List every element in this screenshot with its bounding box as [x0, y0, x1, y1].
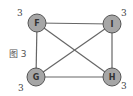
node-label: H — [109, 73, 116, 82]
node-degree-label: 3 — [121, 8, 127, 18]
node-G: G3 — [18, 68, 45, 93]
node-degree-label: 3 — [121, 81, 127, 91]
edge-F-I — [37, 23, 112, 24]
node-label: G — [33, 73, 40, 82]
edges — [36, 23, 112, 77]
node-H: H3 — [103, 68, 127, 91]
node-degree-label: 3 — [18, 83, 24, 93]
figure-caption: 图 3 — [9, 47, 27, 60]
node-F: F3 — [17, 8, 46, 32]
node-label: I — [111, 20, 114, 29]
node-I: I3 — [103, 8, 127, 33]
node-label: F — [34, 19, 39, 28]
nodes: F3I3G3H3 — [17, 8, 127, 93]
node-degree-label: 3 — [17, 8, 23, 18]
